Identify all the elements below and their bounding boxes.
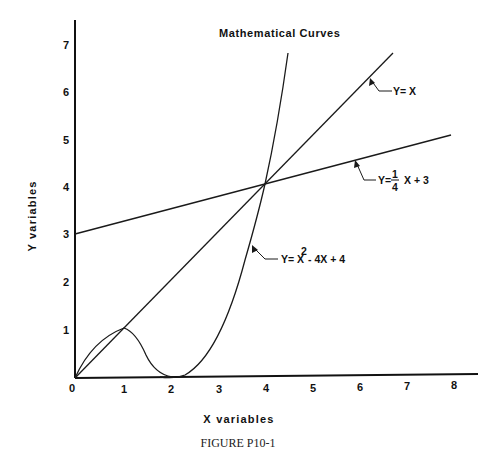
leader-line: [371, 80, 392, 91]
arrowhead-icon: [354, 160, 360, 168]
y-tick-4: 4: [63, 181, 70, 193]
x-tick-0: 0: [69, 382, 75, 394]
label-y-equals-x: Y= X: [369, 78, 416, 97]
chart-figure: Mathematical Curves 1 2 3 4 5 6 7 0 1 2 …: [0, 0, 490, 460]
y-tick-2: 2: [63, 276, 69, 288]
x-axis-label: X variables: [203, 413, 274, 425]
y-tick-6: 6: [63, 86, 69, 98]
y-axis-label: Y variables: [26, 180, 38, 251]
x-tick-1: 1: [121, 383, 127, 395]
label-prefix: Y=: [378, 174, 391, 186]
x-axis: [75, 374, 478, 378]
y-tick-labels: 1 2 3 4 5 6 7: [63, 39, 70, 336]
x-tick-4: 4: [263, 382, 270, 394]
y-tick-5: 5: [63, 134, 69, 146]
line-y-equals-x: [75, 53, 393, 378]
leader-line: [356, 162, 376, 180]
y-tick-3: 3: [63, 228, 69, 240]
x-tick-6: 6: [357, 381, 363, 393]
x-tick-7: 7: [404, 380, 410, 392]
figure-caption: FIGURE P10-1: [200, 436, 275, 450]
label-parabola: Y= X 2 - 4X + 4: [252, 245, 345, 265]
x-tick-5: 5: [310, 382, 316, 394]
parabola-curve: [160, 53, 288, 378]
y-tick-1: 1: [63, 324, 69, 336]
x-tick-labels: 0 1 2 3 4 5 6 7 8: [69, 379, 457, 395]
label-text: Y= X: [393, 85, 416, 97]
label-quarter-x-plus-3: Y= 1 4 X + 3: [354, 160, 429, 193]
label-suffix: X + 3: [404, 174, 429, 186]
hump-curve: [75, 328, 172, 378]
fraction-numerator: 1: [392, 168, 398, 180]
label-suffix: - 4X + 4: [308, 253, 345, 265]
y-tick-7: 7: [63, 39, 69, 51]
fraction-denominator: 4: [392, 181, 398, 193]
chart-title: Mathematical Curves: [219, 27, 340, 39]
x-tick-8: 8: [451, 379, 457, 391]
leader-line: [253, 247, 278, 259]
x-tick-3: 3: [216, 383, 222, 395]
label-superscript: 2: [301, 245, 307, 257]
x-tick-2: 2: [168, 383, 174, 395]
